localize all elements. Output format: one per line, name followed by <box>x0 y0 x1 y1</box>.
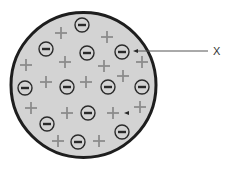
electron-icon <box>101 80 115 94</box>
label-x: X <box>213 46 220 57</box>
electron-icon <box>18 81 32 95</box>
electron-icon <box>71 135 85 149</box>
electron-icon <box>39 42 53 56</box>
electron-icon <box>115 125 129 139</box>
electron-icon <box>60 80 74 94</box>
electron-icon <box>40 117 54 131</box>
electron-icon <box>80 46 94 60</box>
positive-sphere <box>11 13 156 158</box>
electron-icon <box>115 45 129 59</box>
electron-icon <box>135 80 149 94</box>
electron-icon <box>75 18 89 32</box>
plum-pudding-diagram <box>0 0 225 171</box>
electron-icon <box>81 106 95 120</box>
